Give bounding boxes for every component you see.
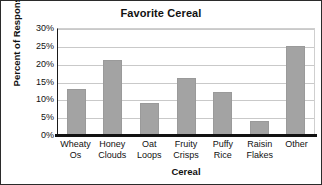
x-tick-label-line: Flakes xyxy=(241,150,278,161)
x-tick-label: RaisinFlakes xyxy=(241,139,278,160)
x-tick-label-line: Other xyxy=(278,139,315,150)
x-tick-label: HoneyClouds xyxy=(94,139,131,160)
x-tick-label-line: Honey xyxy=(94,139,131,150)
x-axis-line xyxy=(55,134,317,137)
bar[interactable] xyxy=(67,89,86,135)
x-tick-label-line: Clouds xyxy=(94,150,131,161)
x-axis-title: Cereal xyxy=(57,166,315,177)
x-axis-tick-labels: WheatyOsHoneyCloudsOatLoopsFruityCrispsP… xyxy=(57,139,315,160)
y-tick-label: 15% xyxy=(5,77,57,87)
bar[interactable] xyxy=(140,103,159,135)
x-tick-label-line: Crisps xyxy=(168,150,205,161)
x-tick-label: PuffyRice xyxy=(204,139,241,160)
bar[interactable] xyxy=(286,46,305,135)
y-tick-label: 10% xyxy=(5,94,57,104)
x-tick-label: OatLoops xyxy=(131,139,168,160)
bar-slot xyxy=(204,29,241,135)
bar-series xyxy=(58,29,314,135)
bar-slot xyxy=(241,29,278,135)
bar[interactable] xyxy=(177,78,196,135)
y-tick-label: 5% xyxy=(5,112,57,122)
x-tick-label-line: Wheaty xyxy=(57,139,94,150)
bar-slot xyxy=(58,29,95,135)
x-tick-label-line: Rice xyxy=(204,150,241,161)
y-tick-label: 25% xyxy=(5,41,57,51)
x-tick-label-line: Puffy xyxy=(204,139,241,150)
plot-area xyxy=(57,28,315,135)
chart-figure: Favorite Cereal Percent of Responses 0%5… xyxy=(0,0,322,185)
bar-slot xyxy=(168,29,205,135)
y-tick-label: 20% xyxy=(5,59,57,69)
x-tick-label-line: Loops xyxy=(131,150,168,161)
bar-slot xyxy=(95,29,132,135)
x-tick-label-line: Os xyxy=(57,150,94,161)
x-tick-label-line: Fruity xyxy=(168,139,205,150)
x-tick-label-line: Oat xyxy=(131,139,168,150)
bar[interactable] xyxy=(250,121,269,135)
x-tick-label: Other xyxy=(278,139,315,160)
bar-slot xyxy=(131,29,168,135)
bar[interactable] xyxy=(213,92,232,135)
y-tick-label: 0% xyxy=(5,130,57,140)
x-tick-label-line: Raisin xyxy=(241,139,278,150)
y-tick-label: 30% xyxy=(5,23,57,33)
x-tick-label: FruityCrisps xyxy=(168,139,205,160)
y-axis-tick-labels: 0%5%10%15%20%25%30% xyxy=(1,1,57,185)
bar[interactable] xyxy=(103,60,122,135)
x-tick-label: WheatyOs xyxy=(57,139,94,160)
bar-slot xyxy=(277,29,314,135)
